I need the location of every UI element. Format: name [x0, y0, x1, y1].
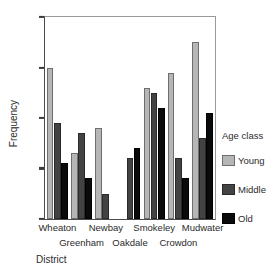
x-axis-tick-label: Crowdon [159, 237, 197, 248]
plot-area [45, 17, 214, 218]
legend-entry-old: Old [222, 212, 280, 225]
bar-group [94, 17, 118, 218]
legend-label: Middle [238, 184, 266, 195]
bar [54, 123, 61, 219]
x-axis-tick-label: Mudwater [182, 222, 224, 233]
x-axis-tick-label: Newbay [89, 222, 123, 233]
bar [61, 163, 68, 218]
bar [144, 88, 151, 219]
x-axis-tick-label: Smokeley [133, 222, 175, 233]
bar [168, 73, 175, 219]
bar [158, 108, 165, 219]
bar [85, 178, 92, 218]
bar [175, 158, 182, 218]
bar [192, 42, 199, 218]
bar-group [118, 17, 142, 218]
legend-swatch-icon [222, 213, 235, 224]
bar [78, 133, 85, 219]
bar [71, 153, 78, 218]
bar [102, 194, 109, 219]
legend: Age class YoungMiddleOld [222, 130, 280, 241]
bar [182, 178, 189, 218]
bar-chart-figure: Frequency 010203040 WheatonGreenhamNewba… [0, 0, 280, 273]
x-axis-tick-label: Greenham [59, 237, 104, 248]
legend-entry-young: Young [222, 154, 280, 167]
legend-swatch-icon [222, 155, 235, 166]
bar-group [142, 17, 166, 218]
bar [95, 128, 102, 219]
legend-title: Age class [222, 130, 280, 141]
legend-label: Young [238, 155, 265, 166]
bar [206, 113, 213, 219]
bar-group [45, 17, 69, 218]
legend-label: Old [238, 213, 253, 224]
bar [134, 148, 141, 218]
bar-group [69, 17, 93, 218]
x-axis-tick-label: Wheaton [38, 222, 76, 233]
legend-swatch-icon [222, 184, 235, 195]
x-axis-tick-label: Oakdale [112, 237, 147, 248]
bar [199, 138, 206, 219]
y-axis-label: Frequency [8, 79, 19, 169]
legend-entries: YoungMiddleOld [222, 154, 280, 225]
bar-group [190, 17, 214, 218]
bar [47, 68, 54, 219]
legend-entry-middle: Middle [222, 183, 280, 196]
bar [151, 93, 158, 219]
bar [127, 158, 134, 218]
bar-group [166, 17, 190, 218]
x-axis-label: District [36, 254, 67, 265]
